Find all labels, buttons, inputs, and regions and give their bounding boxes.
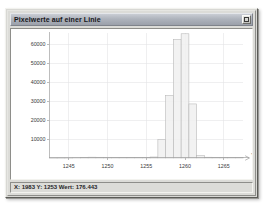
y-axis-tick-label: 10000 [31,136,46,142]
x-axis-tick-label: 1260 [179,163,191,169]
x-axis-tick-label: 1255 [140,163,152,169]
y-axis-tick-label: 40000 [31,79,46,85]
title-bar[interactable]: Pixelwerte auf einer Linie [10,13,253,26]
plot-window[interactable]: Pixelwerte auf einer Linie 1000020000300… [5,8,258,198]
histogram-bar [181,34,189,158]
title-bar-buttons [241,15,252,24]
close-icon[interactable] [242,15,251,24]
close-glyph [244,17,249,22]
histogram-bar [166,95,174,158]
histogram-bar [197,156,205,158]
y-axis-tick-label: 60000 [31,41,46,47]
histogram-bar [158,139,166,158]
status-bar: X: 1983 Y: 1253 Wert: 176.443 [10,182,253,193]
x-axis-name: Y [251,152,252,158]
grid-layer [49,33,243,158]
window-inner-frame: Pixelwerte auf einer Linie 1000020000300… [7,10,256,196]
x-axis-tick-label: 1245 [63,163,75,169]
y-axis-tick-label: 30000 [31,98,46,104]
page-title: Pixelwerte auf einer Linie [11,14,101,25]
x-axis-tick-label: 1250 [102,163,114,169]
status-text: X: 1983 Y: 1253 Wert: 176.443 [11,183,97,192]
axis-labels-layer: 1000020000300004000050000600001245125012… [31,41,252,168]
histogram-chart: 1000020000300004000050000600001245125012… [11,29,252,179]
chart-panel[interactable]: 1000020000300004000050000600001245125012… [10,28,253,180]
histogram-bar [189,104,197,158]
histogram-bar [173,39,181,158]
x-axis-tick-label: 1265 [218,163,230,169]
axes-layer [47,32,250,161]
y-axis-tick-label: 20000 [31,117,46,123]
y-axis-tick-label: 50000 [31,60,46,66]
